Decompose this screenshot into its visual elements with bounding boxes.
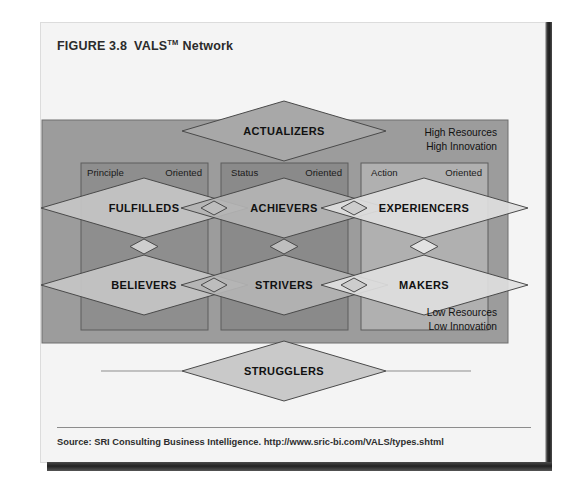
note-high-innovation: High Innovation <box>426 141 497 152</box>
column-header-status-right: Oriented <box>305 167 342 178</box>
note-low-resources: Low Resources <box>427 307 497 318</box>
column-header-status-left: Status <box>231 167 258 178</box>
figure-source-text: Source: SRI Consulting Business Intellig… <box>57 437 531 447</box>
note-low-innovation: Low Innovation <box>428 321 497 332</box>
node-achievers-label: ACHIEVERS <box>250 202 317 214</box>
node-fulfilleds-label: FULFILLEDS <box>109 202 180 214</box>
node-experiencers-label: EXPERIENCERS <box>379 202 469 214</box>
column-header-principle-left: Principle <box>87 167 124 178</box>
figure-card: FIGURE 3.8VALSTMNetwork <box>40 22 546 463</box>
column-header-action-right: Oriented <box>445 167 482 178</box>
figure-footer-rule <box>57 427 531 428</box>
node-believers-label: BELIEVERS <box>111 279 177 291</box>
column-header-action-left: Action <box>371 167 398 178</box>
column-header-principle-right: Oriented <box>165 167 202 178</box>
page-right-edge-shadow <box>545 22 552 465</box>
node-makers-label: MAKERS <box>399 279 449 291</box>
note-high-resources: High Resources <box>425 127 497 138</box>
node-actualizers-label: ACTUALIZERS <box>243 125 324 137</box>
page-canvas: FIGURE 3.8VALSTMNetwork <box>0 0 563 494</box>
node-strivers-label: STRIVERS <box>255 279 313 291</box>
node-strugglers-label: STRUGGLERS <box>244 365 324 377</box>
page-bottom-edge-shadow <box>47 462 552 471</box>
vals-network-diagram: Principle Oriented Status Oriented Actio… <box>41 23 547 464</box>
